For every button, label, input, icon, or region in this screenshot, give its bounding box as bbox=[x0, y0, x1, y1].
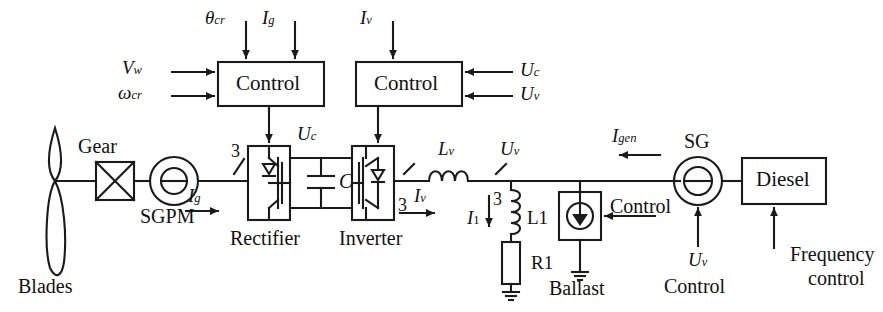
frequency-control-label-line1: Frequency bbox=[790, 244, 874, 264]
diagram-canvas: θcr Ig Iv Vw ωcr Control Control Uc Uv G… bbox=[0, 0, 883, 312]
label-i1: I1 bbox=[467, 208, 480, 227]
label-iv-top: Iv bbox=[360, 8, 372, 27]
label-omega-cr: ωcr bbox=[118, 83, 142, 102]
inductor-l1-label: L1 bbox=[527, 208, 548, 227]
gear-box-icon bbox=[96, 162, 134, 200]
label-uv-right: Uv bbox=[520, 84, 539, 103]
blades-label: Blades bbox=[18, 276, 72, 296]
ballast-label: Ballast bbox=[549, 278, 605, 298]
capacitor-label: C bbox=[339, 171, 352, 191]
phase-mark-bus: 3 bbox=[493, 190, 502, 208]
label-vw: Vw bbox=[122, 58, 142, 77]
label-uv-bus: Uv bbox=[500, 139, 519, 158]
sgpm-label: SGPM bbox=[140, 206, 194, 226]
sg-icon bbox=[674, 157, 722, 205]
label-igen: Igen bbox=[612, 126, 636, 145]
control-rectifier-label: Control bbox=[236, 73, 300, 94]
diesel-label: Diesel bbox=[756, 169, 810, 190]
inverter-label: Inverter bbox=[339, 228, 402, 248]
control-inverter-label: Control bbox=[374, 73, 438, 94]
resistor-r1-label: R1 bbox=[531, 253, 553, 272]
frequency-control-label-line2: control bbox=[808, 268, 865, 288]
label-uv-bottom: Uv bbox=[688, 250, 707, 269]
label-uc-right: Uc bbox=[520, 60, 539, 79]
phase-mark-inverter: 3 bbox=[398, 196, 407, 214]
inductor-lv-icon bbox=[429, 171, 468, 181]
capacitor-icon bbox=[308, 158, 334, 208]
inductor-l1-icon bbox=[511, 190, 520, 234]
gear-label: Gear bbox=[78, 136, 117, 156]
inverter-block bbox=[352, 146, 394, 220]
label-lv: Lv bbox=[438, 139, 454, 158]
label-ig-top: Ig bbox=[262, 8, 275, 27]
resistor-r1-icon bbox=[502, 242, 520, 284]
phase-mark-rectifier: 3 bbox=[231, 142, 240, 160]
ground-r1-icon bbox=[503, 292, 519, 300]
rectifier-label: Rectifier bbox=[230, 228, 300, 248]
rectifier-block bbox=[248, 146, 290, 220]
blades-icon bbox=[47, 128, 66, 275]
phase-slash-bus bbox=[496, 164, 506, 174]
ballast-block bbox=[559, 192, 601, 240]
uv-control-label: Control bbox=[664, 276, 725, 296]
label-ig-line: Ig bbox=[188, 186, 201, 205]
label-iv-line: Iv bbox=[414, 186, 426, 205]
ballast-control-label: Control bbox=[610, 196, 671, 216]
label-uc-dc: Uc bbox=[297, 124, 316, 143]
phase-slash-rectifier bbox=[234, 159, 244, 174]
phase-slash-inverter bbox=[404, 164, 414, 174]
sg-label: SG bbox=[684, 131, 710, 151]
label-theta-cr: θcr bbox=[205, 8, 225, 27]
